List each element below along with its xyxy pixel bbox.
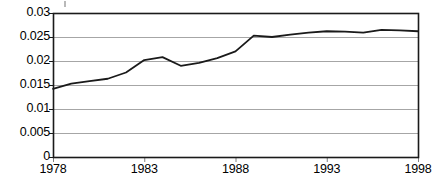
x-tick-label: 1983 — [114, 162, 174, 176]
x-tick-label: 1988 — [206, 162, 266, 176]
x-tick-label: 1993 — [297, 162, 357, 176]
x-axis-tick-labels: 19781983198819931998 — [0, 0, 435, 193]
x-tick-label: 1978 — [23, 162, 83, 176]
line-chart: 00.0050.010.0150.020.0250.03 19781983198… — [0, 0, 435, 193]
x-tick-label: 1998 — [388, 162, 435, 176]
